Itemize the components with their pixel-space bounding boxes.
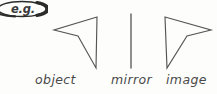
eg-callout-label: e.g.: [11, 2, 35, 16]
image-arrow-shape: [165, 17, 211, 68]
label-mirror: mirror: [111, 74, 152, 87]
label-object: object: [35, 74, 76, 87]
object-arrow-shape: [54, 17, 97, 68]
figure-canvas: e.g. object mirror image: [0, 0, 217, 94]
label-image: image: [166, 74, 207, 87]
